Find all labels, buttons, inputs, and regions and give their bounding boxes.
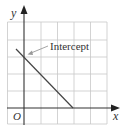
grid <box>8 22 108 124</box>
intercept-arrow <box>28 46 49 55</box>
intercept-arrowhead-icon <box>28 51 34 56</box>
y-axis <box>21 5 28 125</box>
coordinate-graph: y x O Intercept <box>0 0 123 132</box>
origin-label: O <box>13 110 21 122</box>
y-axis-arrow-icon <box>21 5 28 14</box>
y-axis-label: y <box>10 6 17 20</box>
intercept-label: Intercept <box>50 40 89 52</box>
x-axis-label: x <box>112 109 119 123</box>
